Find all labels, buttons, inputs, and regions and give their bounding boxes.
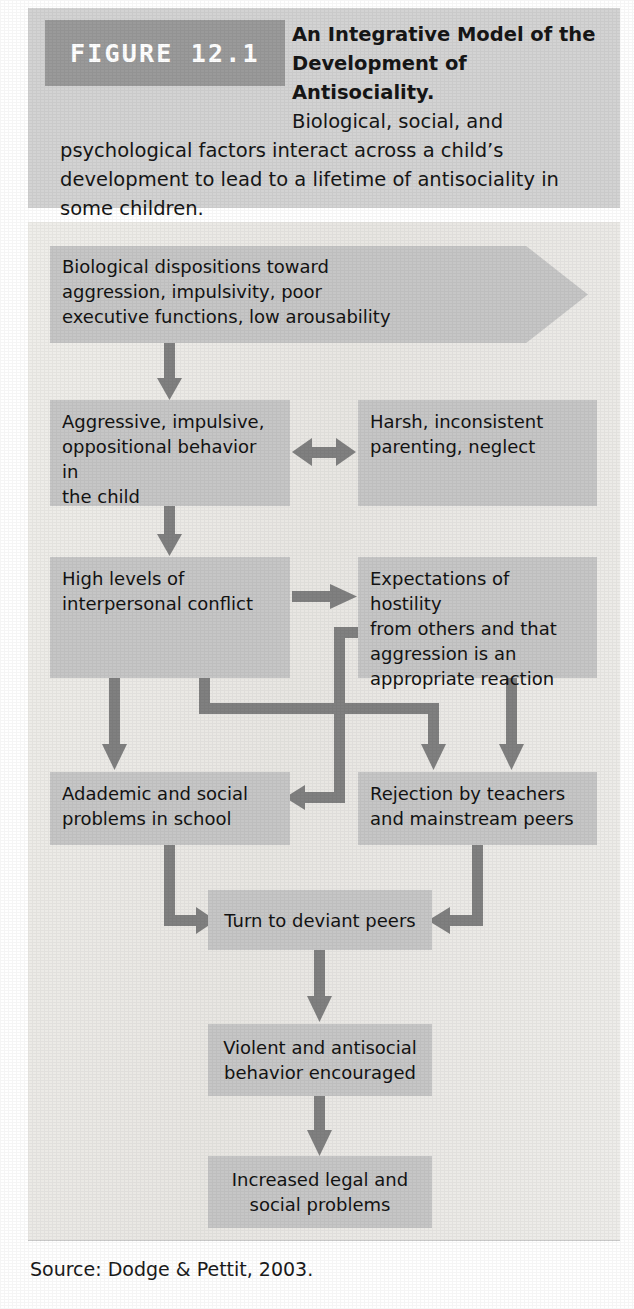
node-biological-dispositions[interactable]: Biological dispositions towardaggression… xyxy=(50,246,588,343)
node-increased-legal-problems-label: Increased legal andsocial problems xyxy=(222,1161,418,1223)
node-rejection-by-teachers[interactable]: Rejection by teachersand mainstream peer… xyxy=(358,772,597,845)
figure-title-line-2: Development of Antisociality. xyxy=(292,49,612,107)
node-violent-behavior-label: Violent and antisocialbehavior encourage… xyxy=(213,1029,427,1091)
node-biological-dispositions-label: Biological dispositions towardaggression… xyxy=(50,246,588,337)
source-citation: Source: Dodge & Pettit, 2003. xyxy=(30,1258,313,1280)
node-aggressive-behavior-label: Aggressive, impulsive,oppositional behav… xyxy=(50,400,290,518)
node-harsh-parenting-label: Harsh, inconsistentparenting, neglect xyxy=(358,400,597,468)
node-hostility-expectations[interactable]: Expectations of hostilityfrom others and… xyxy=(358,557,597,678)
figure-caption-block: An Integrative Model of the Development … xyxy=(60,20,612,223)
node-interpersonal-conflict[interactable]: High levels ofinterpersonal conflict xyxy=(50,557,290,678)
node-increased-legal-problems[interactable]: Increased legal andsocial problems xyxy=(208,1156,432,1228)
figure-caption-body: psychological factors interact across a … xyxy=(60,136,612,223)
node-aggressive-behavior[interactable]: Aggressive, impulsive,oppositional behav… xyxy=(50,400,290,506)
node-deviant-peers[interactable]: Turn to deviant peers xyxy=(208,890,432,950)
node-academic-problems[interactable]: Adademic and socialproblems in school xyxy=(50,772,290,845)
figure-title-line-1: An Integrative Model of the xyxy=(292,20,612,49)
node-rejection-by-teachers-label: Rejection by teachersand mainstream peer… xyxy=(358,772,597,840)
node-academic-problems-label: Adademic and socialproblems in school xyxy=(50,772,290,840)
node-harsh-parenting[interactable]: Harsh, inconsistentparenting, neglect xyxy=(358,400,597,506)
node-deviant-peers-label: Turn to deviant peers xyxy=(214,902,425,939)
node-hostility-expectations-label: Expectations of hostilityfrom others and… xyxy=(358,557,597,700)
node-violent-behavior[interactable]: Violent and antisocialbehavior encourage… xyxy=(208,1024,432,1096)
figure-caption-text: An Integrative Model of the Development … xyxy=(60,20,612,223)
figure-caption-line-3: Biological, social, and xyxy=(292,107,612,136)
node-interpersonal-conflict-label: High levels ofinterpersonal conflict xyxy=(50,557,290,625)
source-divider xyxy=(28,1240,620,1241)
